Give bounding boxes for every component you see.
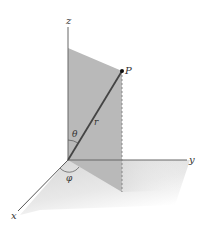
spherical-coordinates-diagram: z y x P r θ φ — [0, 0, 208, 231]
y-axis-label: y — [188, 154, 195, 165]
phi-label: φ — [66, 173, 73, 183]
z-axis-label: z — [65, 15, 72, 26]
floor-shadow-right — [122, 160, 190, 192]
theta-label: θ — [72, 129, 78, 139]
point-label: P — [124, 65, 132, 76]
x-axis-label: x — [11, 210, 17, 221]
radius-label: r — [94, 117, 99, 127]
point-p — [120, 69, 124, 73]
